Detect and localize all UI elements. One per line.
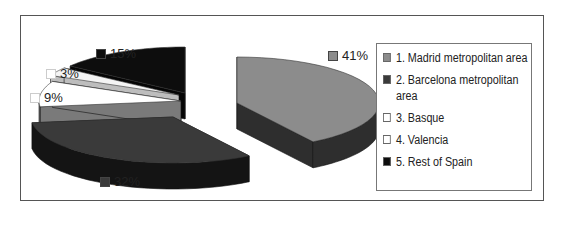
legend-swatch [383, 135, 391, 144]
legend-label: 4. Valencia [396, 132, 448, 148]
data-label-swatch [46, 69, 56, 79]
legend-item: 5. Rest of Spain [383, 154, 529, 170]
legend-item: 2. Barcelona metropolitan area [383, 72, 529, 104]
data-label-swatch [96, 49, 106, 59]
data-label-text: 3% [60, 66, 79, 81]
legend-swatch [383, 53, 391, 62]
pie-slice-2 [32, 117, 249, 189]
data-label-1: 41% [328, 48, 368, 63]
data-label-swatch [30, 93, 40, 103]
data-label-text: 32% [114, 174, 140, 189]
data-label-swatch [328, 51, 338, 61]
legend-item: 1. Madrid metropolitan area [383, 50, 529, 66]
legend-label: 1. Madrid metropolitan area [396, 50, 527, 66]
legend-label: 5. Rest of Spain [396, 154, 472, 170]
data-label-4: 3% [46, 66, 79, 81]
data-label-text: 15% [110, 46, 136, 61]
legend-label: 3. Basque [396, 110, 444, 126]
pie-slice-1 [237, 57, 379, 168]
legend: 1. Madrid metropolitan area2. Barcelona … [376, 43, 532, 191]
legend-item: 4. Valencia [383, 132, 529, 148]
legend-label: 2. Barcelona metropolitan area [396, 72, 529, 104]
legend-swatch [383, 113, 391, 122]
data-label-2: 32% [100, 174, 140, 189]
legend-item: 3. Basque [383, 110, 529, 126]
legend-swatch [383, 75, 391, 84]
data-label-text: 9% [44, 90, 63, 105]
data-label-text: 41% [342, 48, 368, 63]
legend-swatch [383, 157, 391, 166]
data-label-3: 9% [30, 90, 63, 105]
data-label-swatch [100, 177, 110, 187]
data-label-5: 15% [96, 46, 136, 61]
